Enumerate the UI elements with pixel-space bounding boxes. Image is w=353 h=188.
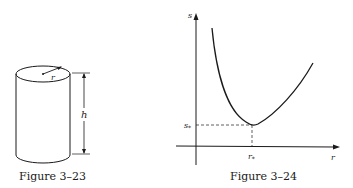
y-axis-label: s bbox=[188, 11, 192, 20]
y-axis-arrow-icon bbox=[194, 13, 199, 20]
height-label: h bbox=[81, 109, 87, 120]
s-curve bbox=[212, 28, 313, 125]
s-star-label: s* bbox=[184, 121, 191, 131]
cylinder-bottom-arc bbox=[16, 155, 70, 163]
x-axis-label: r bbox=[331, 153, 336, 162]
figure-3-23-caption: Figure 3–23 bbox=[19, 170, 86, 183]
cylinder-figure: r h Figure 3–23 bbox=[16, 66, 90, 183]
x-axis bbox=[176, 146, 334, 147]
height-arrow-down bbox=[82, 149, 86, 154]
graph-figure: s r s* r* Figure 3–24 bbox=[176, 11, 340, 183]
figure-canvas: r h Figure 3–23 s r s* r* Figure 3–24 bbox=[0, 0, 353, 188]
r-star-label: r* bbox=[248, 152, 255, 162]
x-axis-arrow-icon bbox=[333, 145, 340, 150]
figure-3-24-caption: Figure 3–24 bbox=[230, 170, 297, 183]
height-arrow-up bbox=[82, 73, 86, 78]
